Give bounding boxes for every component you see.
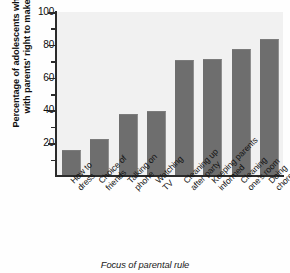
y-axis-title-line-1: Percentage of adolescents who agree [11, 0, 22, 127]
y-tick-major [48, 110, 55, 112]
y-tick-minor [51, 61, 55, 63]
y-tick-minor [51, 127, 55, 129]
y-tick-minor [51, 160, 55, 162]
x-axis-tick-labels: How todressChoice offriendsTalking onpho… [0, 177, 290, 257]
bar-chart-figure: Percentage of adolescents who agree with… [0, 0, 290, 273]
y-tick-major [48, 143, 55, 145]
y-tick-minor [51, 28, 55, 30]
x-axis-title: Focus of parental rule [0, 259, 290, 270]
y-tick-minor [51, 94, 55, 96]
y-tick-major [48, 45, 55, 47]
y-tick-major [48, 78, 55, 80]
y-tick-major [48, 12, 55, 14]
y-axis-line [55, 11, 57, 177]
